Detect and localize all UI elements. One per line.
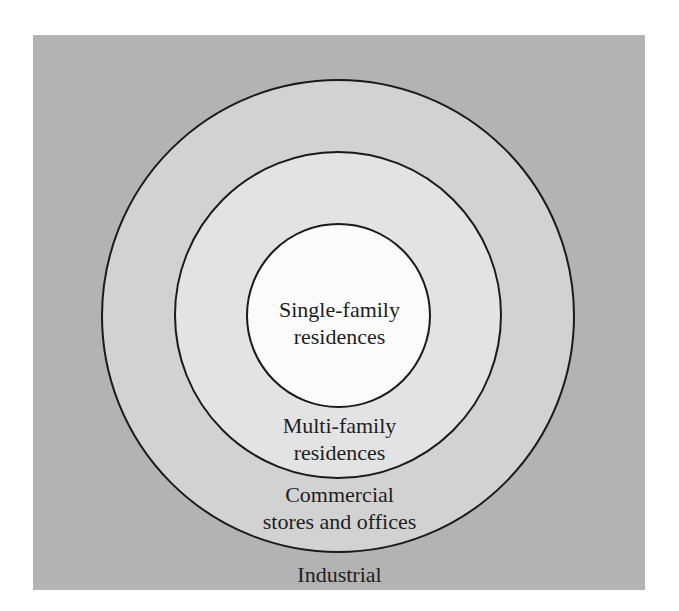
commercial-label-line2: stores and offices — [0, 508, 679, 535]
multi-family-label-line1: Multi-family — [0, 412, 679, 439]
commercial-label: Commercial stores and offices — [0, 481, 679, 535]
industrial-label-line1: Industrial — [0, 561, 679, 588]
single-family-label-line1: Single-family — [0, 296, 679, 323]
multi-family-label-line2: residences — [0, 439, 679, 466]
commercial-label-line1: Commercial — [0, 481, 679, 508]
multi-family-label: Multi-family residences — [0, 412, 679, 466]
industrial-label: Industrial — [0, 561, 679, 588]
single-family-label: Single-family residences — [0, 296, 679, 350]
single-family-label-line2: residences — [0, 323, 679, 350]
